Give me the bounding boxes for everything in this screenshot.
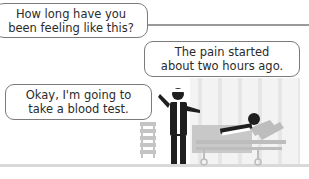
speech-bubble-question: How long have you been feeling like this… [0, 3, 148, 38]
bubble-text-line: The pain started [161, 45, 283, 59]
bubble-text-line: How long have you [8, 7, 134, 21]
speech-bubble-patient: The pain started about two hours ago. [144, 41, 300, 77]
bubble-text-line: about two hours ago. [161, 59, 283, 73]
cabinet-icon [140, 122, 156, 158]
speech-bubble-doctor: Okay, I'm going to take a blood test. [5, 84, 152, 120]
bubble-text-line: been feeling like this? [8, 21, 134, 35]
bubble-text-line: Okay, I'm going to [26, 88, 131, 102]
bubble-text-line: take a blood test. [26, 102, 131, 116]
